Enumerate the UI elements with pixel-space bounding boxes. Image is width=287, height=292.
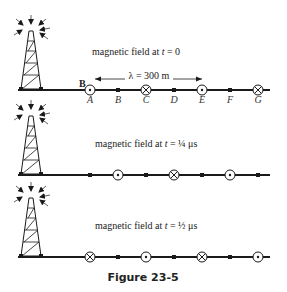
node-dot [228,255,232,259]
field-symbol: B [79,78,86,89]
panel-caption: magnetic field at t = ¼ μs [95,138,197,149]
point-label: D [169,94,178,105]
figure-23-5: magnetic field at t = 0 λ = 300 m B ABCD… [0,0,287,292]
node-dot [144,173,148,177]
field-out-of-page-icon [225,170,235,180]
point-label: A [86,94,94,105]
wavelength-label: λ = 300 m [129,70,170,81]
point-label: G [254,94,261,105]
field-out-of-page-icon [113,170,123,180]
node-dot [88,173,92,177]
node-dot [256,173,260,177]
field-into-page-icon [169,170,179,180]
point-label: C [143,94,150,105]
antenna-tower-icon [14,182,50,257]
node-dot [172,88,176,92]
point-label: F [226,94,234,105]
panel-t0: magnetic field at t = 0 λ = 300 m B ABCD… [14,15,270,105]
panel-t-half: magnetic field at t = ½ μs [14,182,270,262]
figure-title: Figure 23-5 [107,271,178,284]
node-dot [172,255,176,259]
point-label: E [198,94,205,105]
panel-caption: magnetic field at t = 0 [92,46,180,57]
node-dot [116,255,120,259]
node-dot [228,88,232,92]
node-dot [200,173,204,177]
field-out-of-page-icon [141,252,151,262]
field-into-page-icon [85,252,95,262]
field-into-page-icon [197,252,207,262]
field-out-of-page-icon [253,252,263,262]
antenna-tower-icon [14,15,50,90]
antenna-tower-icon [14,100,50,175]
panel-caption: magnetic field at t = ½ μs [95,220,197,231]
point-label: B [115,94,121,105]
node-dot [116,88,120,92]
panel-t-quarter: magnetic field at t = ¼ μs [14,100,270,180]
